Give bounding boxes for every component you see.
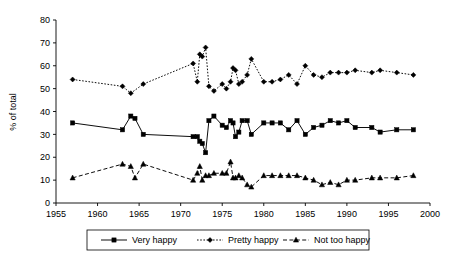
data-point [120,161,125,166]
series-not-too-happy [70,159,416,189]
data-point [240,119,244,123]
x-tick-label: 1995 [378,209,398,219]
data-point [411,72,416,77]
data-point [328,119,332,123]
data-point [328,180,333,185]
data-point [278,121,282,125]
data-point [141,132,145,136]
data-point [262,121,266,125]
data-point [287,128,291,132]
data-point [195,135,199,139]
data-point [233,135,237,139]
data-point [378,68,383,73]
happiness-trend-chart: 01020304050607080 1955196019651970197519… [0,0,455,260]
series-layer [70,45,416,189]
data-point [411,128,415,132]
x-tick-label: 1955 [46,209,66,219]
y-tick-label: 60 [40,61,50,71]
data-point [395,128,399,132]
data-point [336,121,340,125]
data-point [200,141,204,145]
data-point [71,121,75,125]
data-point [70,77,75,82]
data-point [336,70,341,75]
x-tick-label: 1965 [129,209,149,219]
data-point [320,123,324,127]
data-point [228,159,233,164]
legend-label-not-too-happy: Not too happy [314,235,371,245]
data-point [345,119,349,123]
data-point [245,182,250,187]
x-tick-label: 1975 [212,209,232,219]
legend-label-pretty-happy: Pretty happy [228,235,279,245]
data-point [195,170,200,175]
data-point [231,121,235,125]
x-tick-label: 2000 [420,209,440,219]
data-point [249,132,253,136]
data-point [353,68,358,73]
data-point [191,177,196,182]
x-axis: 1955196019651970197519801985199019952000 [46,203,440,219]
chart-container: 01020304050607080 1955196019651970197519… [0,0,455,260]
data-point [312,125,316,129]
data-point [245,119,249,123]
legend-marker-diamond [208,238,213,243]
data-point [220,123,224,127]
x-tick-label: 1990 [337,209,357,219]
data-point [261,173,266,178]
data-point [353,125,357,129]
data-point [295,82,300,87]
data-point [204,151,208,155]
data-point [286,72,291,77]
data-point [120,128,124,132]
y-tick-label: 10 [40,175,50,185]
data-point [197,164,202,169]
y-tick-label: 80 [40,15,50,25]
chart-legend: Very happyPretty happyNot too happy [87,230,371,250]
data-point [303,63,308,68]
data-point [207,119,211,123]
data-point [191,61,196,66]
data-point [133,116,137,120]
data-point [224,125,228,129]
data-point [394,70,399,75]
data-point [129,114,133,118]
data-point [270,121,274,125]
legend-label-very-happy: Very happy [132,235,178,245]
data-point [370,125,374,129]
data-point [236,173,241,178]
x-tick-label: 1985 [295,209,315,219]
data-point [328,70,333,75]
legend-marker-square [112,238,116,242]
data-point [369,70,374,75]
y-tick-label: 50 [40,84,50,94]
data-point [120,84,125,89]
data-point [228,79,233,84]
y-axis-title: % of total [8,93,18,131]
data-point [261,79,266,84]
data-point [303,132,307,136]
y-tick-label: 70 [40,38,50,48]
y-tick-label: 0 [45,198,50,208]
series-pretty-happy [70,45,416,96]
data-point [212,114,216,118]
data-point [411,173,416,178]
x-tick-label: 1980 [254,209,274,219]
y-axis: 01020304050607080 [40,15,56,208]
data-point [319,75,324,80]
data-point [237,130,241,134]
data-point [249,56,254,61]
data-point [270,79,275,84]
series-very-happy [71,114,416,155]
data-point [191,135,195,139]
data-point [303,175,308,180]
data-point [378,130,382,134]
y-tick-label: 30 [40,130,50,140]
y-tick-label: 40 [40,107,50,117]
x-tick-label: 1970 [171,209,191,219]
data-point [278,77,283,82]
data-point [141,161,146,166]
data-point [132,175,137,180]
data-point [344,70,349,75]
x-tick-label: 1960 [88,209,108,219]
